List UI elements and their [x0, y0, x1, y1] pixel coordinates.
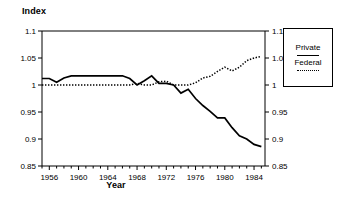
plot-frame [42, 31, 265, 166]
legend-entry-federal: Federal [284, 58, 332, 73]
legend-swatch-federal-dotted-line [297, 68, 319, 73]
legend-swatch-private-solid-line [297, 53, 319, 58]
svg-text:1976: 1976 [187, 173, 205, 182]
svg-text:1972: 1972 [157, 173, 175, 182]
svg-text:1.1: 1.1 [25, 27, 37, 36]
svg-text:1968: 1968 [128, 173, 146, 182]
legend-label-private: Private [296, 43, 321, 53]
legend-label-federal: Federal [294, 58, 321, 68]
svg-text:1: 1 [32, 81, 37, 90]
legend-entry-private: Private [284, 43, 332, 58]
y-axis-left-ticks: 0.850.90.9511.051.1 [20, 27, 42, 171]
svg-text:1984: 1984 [245, 173, 263, 182]
svg-text:1.05: 1.05 [20, 54, 36, 63]
svg-text:0.95: 0.95 [20, 108, 36, 117]
data-series-group [42, 56, 261, 146]
series-line-federal [42, 56, 261, 85]
svg-text:1: 1 [272, 81, 277, 90]
svg-text:1960: 1960 [70, 173, 88, 182]
svg-text:0.85: 0.85 [20, 162, 36, 171]
svg-text:1956: 1956 [40, 173, 58, 182]
x-axis-ticks: 19561960196419681972197619801984 [40, 166, 263, 182]
series-line-private [42, 76, 261, 147]
chart-legend: Private Federal [283, 28, 333, 87]
svg-text:0.95: 0.95 [272, 108, 288, 117]
svg-text:0.85: 0.85 [272, 162, 288, 171]
svg-text:1964: 1964 [99, 173, 117, 182]
svg-text:1.1: 1.1 [272, 27, 284, 36]
svg-text:0.9: 0.9 [272, 135, 284, 144]
chart-figure: Index Year 0.850.90.9511.051.1 0.850.90.… [0, 0, 342, 201]
svg-text:0.9: 0.9 [25, 135, 37, 144]
svg-text:1980: 1980 [216, 173, 234, 182]
